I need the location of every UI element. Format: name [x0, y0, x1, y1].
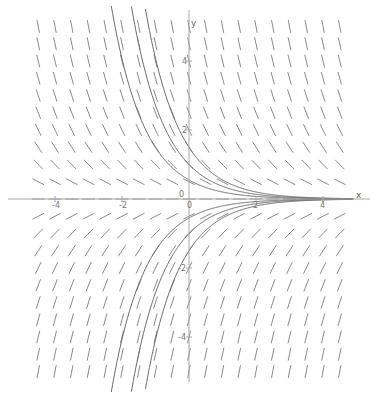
slope-mark	[238, 313, 241, 326]
slope-mark	[66, 213, 78, 219]
slope-mark	[103, 296, 107, 308]
slope-mark	[86, 296, 90, 308]
slope-mark	[238, 331, 241, 344]
slope-mark	[166, 179, 178, 185]
slope-mark	[120, 296, 124, 308]
slope-mark	[101, 160, 110, 169]
slope-mark	[204, 72, 207, 85]
solution-curve	[111, 6, 353, 199]
slope-mark	[236, 142, 243, 153]
slope-mark	[32, 179, 44, 185]
slope-mark	[169, 124, 175, 136]
slope-mark	[203, 279, 208, 291]
slope-mark	[254, 89, 258, 101]
y-axis-label: y	[191, 18, 197, 28]
slope-mark	[87, 72, 90, 85]
slope-mark	[136, 262, 142, 274]
slope-mark	[121, 20, 123, 33]
slope-mark	[251, 160, 260, 169]
slope-mark	[87, 313, 90, 326]
slope-mark	[339, 365, 341, 378]
slope-mark	[253, 124, 259, 136]
slope-mark	[104, 37, 107, 50]
slope-mark	[85, 142, 92, 153]
slope-mark	[102, 142, 109, 153]
slope-mark	[35, 124, 41, 136]
slope-mark	[120, 331, 123, 344]
slope-mark	[270, 124, 276, 136]
slope-mark	[171, 20, 173, 33]
slope-mark	[305, 72, 308, 85]
slope-mark	[238, 20, 240, 33]
slope-mark	[319, 142, 326, 153]
slope-mark	[220, 124, 226, 136]
slope-mark	[120, 89, 124, 101]
slope-mark	[116, 179, 128, 185]
slope-mark	[320, 124, 326, 136]
slope-mark	[86, 279, 91, 291]
slope-mark	[137, 55, 140, 68]
slope-mark	[169, 142, 176, 153]
slope-mark	[121, 37, 124, 50]
slope-mark	[50, 229, 59, 238]
slope-mark	[220, 279, 225, 291]
slope-mark	[204, 37, 207, 50]
slope-mark	[250, 213, 262, 219]
slope-mark	[49, 179, 61, 185]
slope-mark	[71, 365, 73, 378]
slope-mark	[134, 160, 143, 169]
slope-mark	[36, 89, 40, 101]
slope-mark	[221, 331, 224, 344]
slope-mark	[104, 331, 107, 344]
slope-mark	[304, 296, 308, 308]
slope-mark	[319, 245, 326, 256]
slope-mark	[303, 124, 309, 136]
slope-mark	[69, 279, 74, 291]
slope-mark	[53, 331, 56, 344]
slope-mark	[254, 313, 257, 326]
slope-mark	[35, 262, 41, 274]
slope-mark	[285, 229, 294, 238]
slope-mark	[133, 213, 145, 219]
slope-mark	[104, 313, 107, 326]
slope-mark	[103, 107, 108, 119]
slope-mark	[99, 213, 111, 219]
slope-mark	[87, 37, 90, 50]
slope-mark	[302, 229, 311, 238]
slope-mark	[102, 124, 108, 136]
slope-mark	[338, 72, 341, 85]
slope-mark	[83, 179, 95, 185]
solution-curve	[131, 6, 353, 198]
slope-mark	[205, 365, 207, 378]
slope-mark	[36, 107, 41, 119]
slope-mark	[268, 229, 277, 238]
slope-mark	[334, 179, 346, 185]
slope-mark	[305, 365, 307, 378]
slope-mark	[83, 213, 95, 219]
slope-mark	[271, 37, 274, 50]
slope-mark	[233, 179, 245, 185]
slope-mark	[303, 142, 310, 153]
slope-mark	[255, 20, 257, 33]
slope-mark	[166, 213, 178, 219]
slope-mark	[171, 348, 174, 361]
slope-mark	[238, 348, 241, 361]
slope-mark	[135, 245, 142, 256]
slope-mark	[336, 245, 343, 256]
slope-mark	[285, 160, 294, 169]
slope-mark	[204, 348, 207, 361]
slope-mark	[270, 279, 275, 291]
slope-mark	[218, 229, 227, 238]
slope-mark	[99, 179, 111, 185]
slope-mark	[287, 124, 293, 136]
slope-mark	[54, 348, 57, 361]
slope-mark	[237, 107, 242, 119]
slope-mark	[203, 262, 209, 274]
slope-mark	[304, 279, 309, 291]
slope-mark	[200, 179, 212, 185]
slope-mark	[137, 72, 140, 85]
slope-mark	[271, 313, 274, 326]
slope-mark	[171, 72, 174, 85]
slope-mark	[120, 313, 123, 326]
slope-mark	[53, 279, 58, 291]
